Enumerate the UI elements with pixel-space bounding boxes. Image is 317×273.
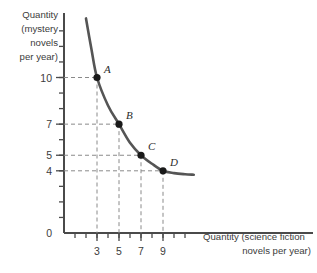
x-axis-title-line-2: novels per year): [242, 245, 311, 256]
data-point-label-c: C: [148, 140, 156, 152]
data-point-d: [159, 167, 166, 174]
y-axis-title-line-2: (mystery: [21, 23, 58, 34]
x-axis-tick-labels: 3579: [94, 245, 166, 257]
data-points-layer: ABCD: [93, 63, 178, 175]
indifference-curve-path: [86, 18, 194, 174]
x-tick-label: 3: [94, 245, 100, 257]
data-point-label-d: D: [169, 156, 178, 168]
y-tick-label: 7: [46, 118, 52, 130]
y-axis-major-ticks: [56, 78, 64, 171]
y-axis-title-line-3: novels: [30, 37, 58, 48]
data-point-a: [93, 74, 100, 81]
x-tick-label: 5: [116, 245, 122, 257]
y-axis-tick-labels: 10754: [40, 72, 52, 177]
x-tick-label: 9: [160, 245, 166, 257]
y-axis-title-line-4: per year): [20, 51, 58, 62]
y-tick-label: 5: [46, 149, 52, 161]
curve-layer: [86, 18, 194, 174]
data-point-label-b: B: [126, 109, 133, 121]
data-point-c: [137, 152, 144, 159]
indifference-curve-chart: Quantity (mystery novels per year) Quant…: [0, 0, 317, 273]
origin-label: 0: [46, 227, 52, 239]
y-axis-title-line-1: Quantity: [22, 9, 58, 20]
x-tick-label: 7: [138, 245, 144, 257]
y-tick-label: 4: [46, 165, 52, 177]
y-tick-label: 10: [40, 72, 52, 84]
data-point-b: [115, 121, 122, 128]
chart-canvas: Quantity (mystery novels per year) Quant…: [0, 0, 317, 273]
data-point-label-a: A: [103, 63, 111, 75]
guide-lines: [64, 78, 163, 234]
